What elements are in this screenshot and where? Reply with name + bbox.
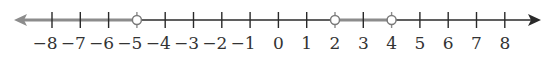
tick-label: −4 — [146, 33, 171, 53]
tick-label: 0 — [273, 33, 284, 53]
tick-label: 3 — [358, 33, 369, 53]
tick-label: −2 — [202, 33, 227, 53]
tick-label: −5 — [117, 33, 142, 53]
tick-label: −6 — [89, 33, 114, 53]
tick-label: 5 — [414, 33, 425, 53]
number-line: −8−7−6−5−4−3−2−1012345678 — [0, 0, 555, 57]
tick-label: 2 — [330, 33, 341, 53]
tick-label: −7 — [61, 33, 86, 53]
tick-label: 6 — [443, 33, 454, 53]
tick-label: 8 — [499, 33, 510, 53]
open-endpoint--5 — [132, 16, 141, 25]
tick-label: 4 — [386, 33, 397, 53]
tick-label: −3 — [174, 33, 199, 53]
open-endpoint-4 — [387, 16, 396, 25]
open-endpoint-2 — [331, 16, 340, 25]
tick-label: 1 — [301, 33, 312, 53]
tick-label: 7 — [471, 33, 482, 53]
number-line-figure: −8−7−6−5−4−3−2−1012345678 — [0, 0, 555, 57]
tick-label: −8 — [32, 33, 57, 53]
tick-label: −1 — [231, 33, 256, 53]
